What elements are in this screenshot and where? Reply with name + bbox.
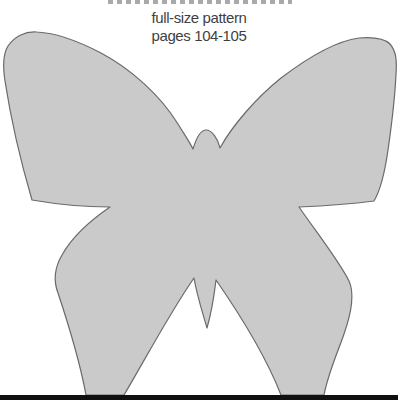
- butterfly-silhouette: [4, 32, 397, 395]
- book-page: full-size pattern pages 104-105: [0, 0, 398, 400]
- butterfly-pattern-figure: [0, 0, 398, 400]
- page-bottom-bar: [0, 395, 398, 400]
